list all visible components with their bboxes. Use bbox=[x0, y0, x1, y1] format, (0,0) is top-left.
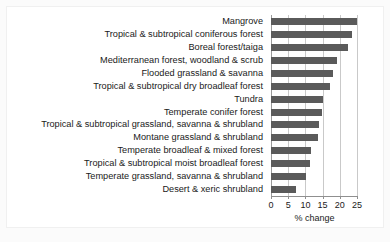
category-label: Mangrove bbox=[222, 15, 263, 28]
category-label: Tropical & subtropical moist broadleaf f… bbox=[84, 157, 263, 170]
category-label: Mediterranean forest, woodland & scrub bbox=[100, 54, 263, 67]
bar-row bbox=[271, 93, 390, 106]
category-label: Boreal forest/taiga bbox=[188, 41, 263, 54]
bar[interactable] bbox=[271, 31, 352, 38]
bar-row bbox=[271, 170, 390, 183]
bar-row bbox=[271, 80, 390, 93]
bar-row bbox=[271, 41, 390, 54]
bar[interactable] bbox=[271, 57, 337, 64]
bar-row bbox=[271, 67, 390, 80]
category-label: Temperate broadleaf & mixed forest bbox=[117, 144, 263, 157]
bar[interactable] bbox=[271, 160, 310, 167]
x-axis-tick-label: 25 bbox=[347, 200, 367, 210]
bar[interactable] bbox=[271, 147, 311, 154]
bar[interactable] bbox=[271, 109, 322, 116]
category-label: Temperate grassland, savanna & shrubland bbox=[86, 170, 263, 183]
bar[interactable] bbox=[271, 70, 333, 77]
category-label: Desert & xeric shrubland bbox=[162, 183, 263, 196]
category-label: Tropical & subtropical grassland, savann… bbox=[41, 118, 263, 131]
category-label: Montane grassland & shrubland bbox=[133, 131, 263, 144]
bar-row bbox=[271, 183, 390, 196]
x-axis-line bbox=[271, 196, 358, 197]
category-label: Temperate conifer forest bbox=[164, 106, 263, 119]
x-axis-tick bbox=[288, 196, 289, 199]
category-label: Tundra bbox=[234, 93, 263, 106]
bar[interactable] bbox=[271, 44, 348, 51]
x-axis-tick bbox=[357, 196, 358, 199]
category-label: Flooded grassland & savanna bbox=[141, 67, 263, 80]
bar[interactable] bbox=[271, 186, 296, 193]
x-axis-title: % change bbox=[271, 213, 358, 223]
bar-row bbox=[271, 54, 390, 67]
bar-row bbox=[271, 144, 390, 157]
horizontal-bar-chart: MangroveTropical & subtropical coniferou… bbox=[0, 0, 390, 242]
bar[interactable] bbox=[271, 96, 323, 103]
category-label: Tropical & subtropical dry broadleaf for… bbox=[93, 80, 263, 93]
bar[interactable] bbox=[271, 173, 306, 180]
x-axis-tick bbox=[340, 196, 341, 199]
bar-row bbox=[271, 157, 390, 170]
bar[interactable] bbox=[271, 121, 319, 128]
bar-group bbox=[271, 15, 390, 196]
bar-row bbox=[271, 28, 390, 41]
chart-screenshot: MangroveTropical & subtropical coniferou… bbox=[0, 0, 390, 242]
bar-row bbox=[271, 118, 390, 131]
x-axis-tick bbox=[323, 196, 324, 199]
x-axis-tick bbox=[305, 196, 306, 199]
bar-row bbox=[271, 15, 390, 28]
category-label: Tropical & subtropical coniferous forest bbox=[105, 28, 263, 41]
bar[interactable] bbox=[271, 83, 330, 90]
bar-row bbox=[271, 106, 390, 119]
bar-row bbox=[271, 131, 390, 144]
category-label-list: MangroveTropical & subtropical coniferou… bbox=[8, 15, 267, 196]
x-axis-tick bbox=[271, 196, 272, 199]
bar[interactable] bbox=[271, 18, 357, 25]
bar[interactable] bbox=[271, 134, 318, 141]
plot-area bbox=[271, 15, 357, 196]
